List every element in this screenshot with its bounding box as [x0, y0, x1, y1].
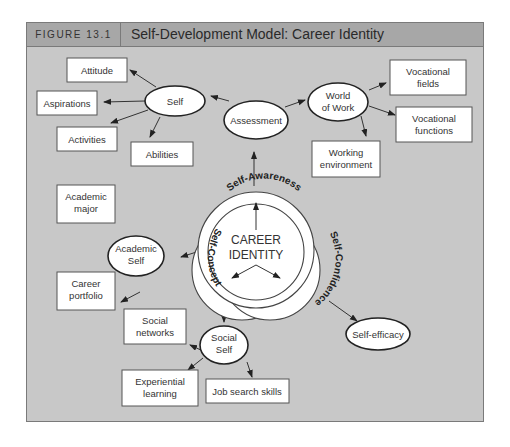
svg-text:Self-efficacy: Self-efficacy [352, 329, 404, 340]
svg-text:World: World [326, 90, 351, 101]
box-academic-major: Academic major [57, 185, 115, 223]
box-career-portfolio: Career portfolio [57, 272, 115, 310]
svg-text:environment: environment [320, 159, 373, 170]
svg-text:Social: Social [142, 315, 168, 326]
svg-text:Experiential: Experiential [135, 376, 185, 387]
diagram-canvas: Self-Awareness Self-Concept Self-Confide… [0, 0, 510, 447]
box-job-search-skills: Job search skills [206, 379, 289, 403]
svg-text:Working: Working [329, 147, 364, 158]
ring-label-self-awareness: Self-Awareness [224, 170, 304, 194]
svg-text:of Work: of Work [322, 102, 355, 113]
career-identity-line2: IDENTITY [229, 248, 284, 262]
svg-text:fields: fields [417, 78, 439, 89]
svg-text:Career: Career [71, 278, 100, 289]
svg-text:Vocational: Vocational [406, 66, 450, 77]
svg-text:networks: networks [136, 327, 174, 338]
svg-text:functions: functions [415, 125, 453, 136]
svg-text:Attitude: Attitude [81, 65, 113, 76]
node-world-of-work: World of Work [308, 83, 368, 121]
box-working-environment: Working environment [312, 141, 380, 177]
svg-text:Assessment: Assessment [230, 115, 282, 126]
svg-text:portfolio: portfolio [69, 290, 103, 301]
box-aspirations: Aspirations [37, 91, 97, 115]
svg-text:Social: Social [211, 332, 237, 343]
svg-text:Academic: Academic [65, 191, 107, 202]
svg-text:Self: Self [216, 344, 233, 355]
box-vocational-functions: Vocational functions [396, 107, 472, 142]
node-academic-self: Academic Self [108, 236, 164, 276]
node-self-efficacy: Self-efficacy [346, 318, 410, 350]
box-attitude: Attitude [67, 58, 127, 82]
box-experiential-learning: Experiential learning [122, 370, 198, 406]
node-social-self: Social Self [200, 326, 248, 364]
svg-text:Self: Self [167, 96, 184, 107]
svg-text:learning: learning [143, 388, 177, 399]
box-activities: Activities [57, 127, 117, 151]
node-self: Self [145, 86, 205, 116]
svg-text:Academic: Academic [115, 243, 157, 254]
svg-text:Abilities: Abilities [146, 149, 179, 160]
svg-text:Self: Self [128, 255, 145, 266]
svg-text:Activities: Activities [68, 134, 106, 145]
box-vocational-fields: Vocational fields [390, 60, 466, 95]
box-social-networks: Social networks [124, 309, 186, 344]
svg-text:Vocational: Vocational [412, 113, 456, 124]
node-assessment: Assessment [224, 101, 288, 139]
svg-text:Job search skills: Job search skills [212, 386, 282, 397]
box-abilities: Abilities [131, 142, 193, 166]
career-identity-line1: CAREER [231, 233, 281, 247]
svg-text:major: major [74, 203, 98, 214]
svg-text:Aspirations: Aspirations [44, 98, 91, 109]
